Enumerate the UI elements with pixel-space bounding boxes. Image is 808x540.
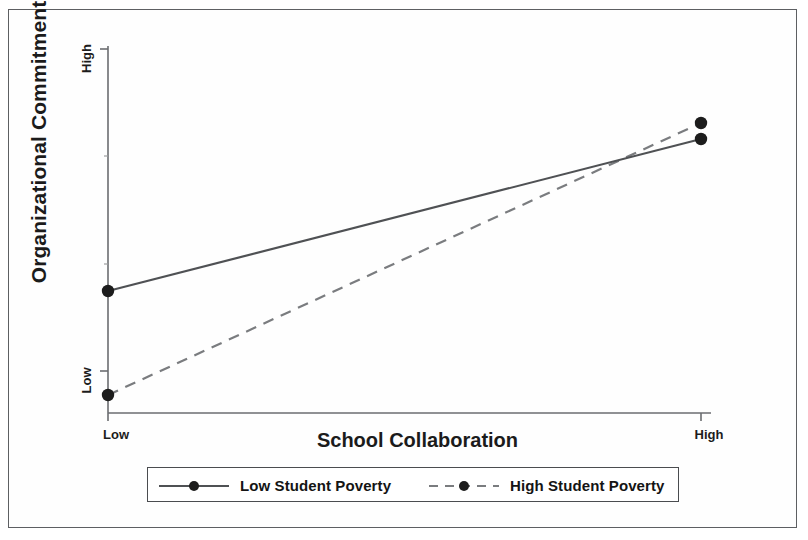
- legend-entry-high-student-poverty: High Student Poverty: [428, 468, 665, 503]
- data-point-high-poverty-low-collab: [102, 389, 114, 401]
- x-axis-title: School Collaboration: [116, 429, 719, 452]
- legend: Low Student Poverty High Student Poverty: [147, 467, 679, 502]
- y-tick-label-high: High: [79, 37, 94, 81]
- data-point-low-poverty-low-collab: [102, 285, 114, 297]
- data-point-high-poverty-high-collab: [695, 117, 707, 129]
- figure-frame: Organizational Commitment School Collabo…: [8, 9, 797, 528]
- x-tick-label-high: High: [682, 427, 736, 442]
- y-tick-label-low: Low: [79, 359, 94, 403]
- series-line-low-student-poverty: [108, 139, 701, 291]
- legend-label-high-student-poverty: High Student Poverty: [510, 477, 665, 494]
- legend-label-low-student-poverty: Low Student Poverty: [240, 477, 391, 494]
- data-point-low-poverty-high-collab: [695, 133, 707, 145]
- legend-swatch-solid-line-icon: [158, 479, 230, 493]
- x-tick-label-low: Low: [89, 427, 143, 442]
- legend-swatch-dashed-line-icon: [428, 479, 500, 493]
- figure-page: Organizational Commitment School Collabo…: [0, 0, 808, 540]
- y-axis-title: Organizational Commitment: [27, 0, 51, 322]
- series-line-high-student-poverty: [108, 123, 701, 395]
- legend-entry-low-student-poverty: Low Student Poverty: [158, 468, 391, 503]
